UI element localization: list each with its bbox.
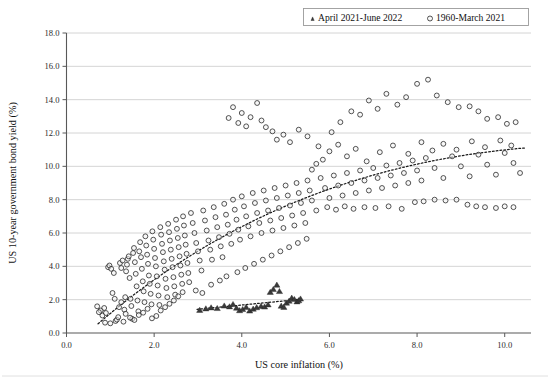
data-point — [248, 115, 253, 120]
data-point — [329, 130, 334, 135]
data-point — [255, 101, 260, 106]
data-point — [138, 240, 143, 245]
data-point — [120, 258, 125, 263]
data-point — [272, 186, 277, 191]
data-point — [243, 266, 248, 271]
data-point — [153, 256, 158, 261]
data-point — [235, 270, 240, 275]
data-point — [292, 223, 297, 228]
data-point — [143, 234, 148, 239]
data-point — [244, 124, 249, 129]
data-point — [160, 250, 165, 255]
data-point — [336, 183, 341, 188]
data-point — [203, 218, 208, 223]
data-point — [192, 231, 197, 236]
data-point — [331, 173, 336, 178]
data-point — [189, 211, 194, 216]
data-point — [371, 166, 376, 171]
y-tick-label: 10.0 — [44, 161, 59, 171]
data-point — [399, 206, 404, 211]
data-point — [375, 176, 380, 181]
data-point — [364, 159, 369, 164]
data-point — [349, 109, 354, 114]
x-tick-label: 0.0 — [61, 340, 72, 350]
data-point — [127, 276, 132, 281]
data-point — [338, 120, 343, 125]
data-point — [128, 296, 133, 301]
data-point — [222, 201, 227, 206]
data-point — [393, 183, 398, 188]
data-point — [388, 173, 393, 178]
data-point — [252, 261, 257, 266]
x-tick-label: 10.0 — [497, 340, 512, 350]
data-point — [139, 255, 144, 260]
data-point — [270, 129, 275, 134]
data-point — [225, 222, 230, 227]
x-tick-label: 8.0 — [412, 340, 423, 350]
data-point — [415, 81, 420, 86]
y-tick-label: 16.0 — [44, 61, 59, 71]
data-point — [132, 246, 137, 251]
data-point — [174, 217, 179, 222]
data-point — [366, 188, 371, 193]
data-point — [430, 148, 435, 153]
data-point — [309, 198, 314, 203]
data-point — [163, 276, 168, 281]
data-point — [125, 262, 130, 267]
data-point — [171, 298, 176, 303]
chart-legend[interactable]: April 2021-June 2022 1960-March 2021 — [304, 9, 529, 26]
data-point — [274, 137, 279, 142]
data-point — [194, 241, 199, 246]
data-point — [154, 274, 159, 279]
data-point — [426, 77, 431, 82]
data-point — [171, 275, 176, 280]
data-point — [285, 193, 290, 198]
data-point — [186, 271, 191, 276]
y-tick-label: 6.0 — [49, 228, 60, 238]
data-point — [146, 273, 151, 278]
data-point — [179, 272, 184, 277]
data-point — [288, 140, 293, 145]
data-point — [303, 221, 308, 226]
data-point — [181, 223, 186, 228]
data-point — [270, 228, 275, 233]
data-point — [116, 315, 121, 320]
data-point — [279, 216, 284, 221]
data-point — [309, 167, 314, 172]
data-point — [153, 264, 158, 269]
data-point — [200, 291, 205, 296]
data-point — [161, 259, 166, 264]
data-point — [183, 242, 188, 247]
y-tick-label: 4.0 — [49, 261, 60, 271]
data-point — [117, 305, 122, 310]
data-point — [129, 304, 134, 309]
data-point — [157, 303, 162, 308]
data-point — [147, 281, 152, 286]
data-point — [432, 197, 437, 202]
data-point — [415, 168, 420, 173]
data-point — [182, 233, 187, 238]
data-point — [467, 174, 472, 179]
data-point — [193, 288, 198, 293]
data-point — [185, 261, 190, 266]
data-point — [518, 171, 523, 176]
data-point — [375, 106, 380, 111]
data-point — [141, 289, 146, 294]
data-point — [197, 258, 202, 263]
data-point — [377, 150, 382, 155]
data-point — [246, 224, 251, 229]
data-point — [229, 241, 234, 246]
data-point — [412, 200, 417, 205]
data-point — [217, 235, 222, 240]
data-point — [358, 112, 363, 117]
data-point — [432, 166, 437, 171]
data-point — [496, 115, 501, 120]
data-point — [160, 241, 165, 246]
data-point — [305, 178, 310, 183]
data-point — [236, 121, 241, 126]
data-point — [305, 134, 310, 139]
data-point — [296, 127, 301, 132]
data-point — [362, 178, 367, 183]
data-point — [206, 238, 211, 243]
data-point — [485, 162, 490, 167]
